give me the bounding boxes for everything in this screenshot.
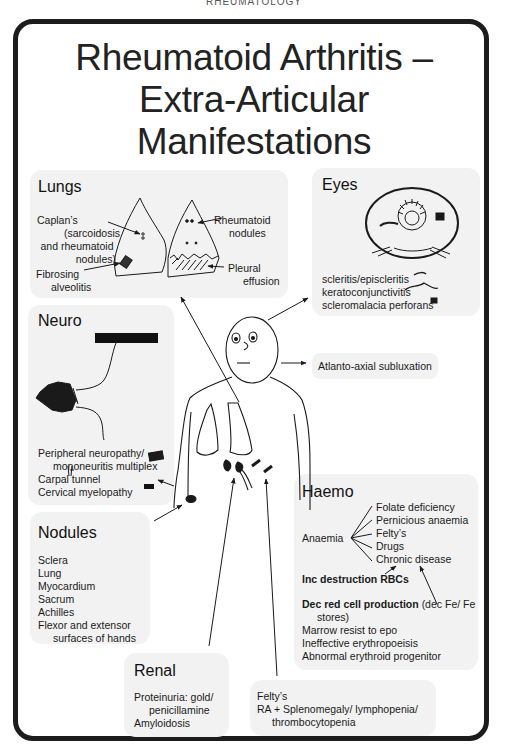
haemo-heading: Haemo (302, 483, 354, 501)
mechanism-ineffective: Ineffective erythropoeisis (302, 637, 475, 650)
anaemia-label: Anaemia (302, 532, 343, 545)
mechanism-abnormal: Abnormal erythroid progenitor (302, 650, 475, 663)
atlanto-axial-label: Atlanto-axial subluxation (318, 360, 432, 373)
nodules-item: Sclera (38, 554, 136, 567)
mechanism-marrow: Marrow resist to epo (302, 624, 475, 637)
eyes-list: scleritis/episcleritis keratoconjunctivi… (322, 273, 433, 312)
eyes-item-keratoconjunctivitis: keratoconjunctivitis (322, 286, 433, 299)
cause-chronic: Chronic disease (376, 553, 468, 566)
cause-drugs: Drugs (376, 540, 468, 553)
inc-destruction-label: Inc destruction RBCs (302, 573, 409, 586)
running-head: RHEUMATOLOGY (0, 0, 508, 7)
atlanto-axial-panel: Atlanto-axial subluxation (312, 353, 438, 379)
nodules-item: Flexor and extensor (38, 619, 136, 632)
eyes-item-scleritis: scleritis/episcleritis (322, 273, 433, 286)
feltys-item: RA + Splenomegaly/ lymphopenia/ (257, 703, 418, 716)
feltys-item: thrombocytopenia (257, 716, 418, 729)
nodules-item: surfaces of hands (38, 632, 136, 645)
title-line-2: Extra-Articular (0, 79, 508, 121)
title-line-3: Manifestations (0, 121, 508, 163)
renal-item: Amyloidosis (134, 717, 213, 730)
renal-heading: Renal (134, 662, 176, 680)
nodules-panel: Nodules Sclera Lung Myocardium Sacrum Ac… (30, 512, 150, 644)
eyes-heading: Eyes (322, 176, 358, 194)
nodules-list: Sclera Lung Myocardium Sacrum Achilles F… (38, 554, 136, 645)
renal-item: penicillamine (134, 704, 213, 717)
neuro-panel: Neuro Peripheral neuropathy/ mononeuriti… (28, 305, 174, 505)
neuro-list: Peripheral neuropathy/ mononeuritis mult… (38, 447, 157, 499)
cause-pernicious: Pernicious anaemia (376, 514, 468, 527)
fibrosing-alveolitis-label: Fibrosing alveolitis (36, 268, 91, 294)
rheumatoid-nodules-label: Rheumatoid nodules (214, 214, 271, 240)
lungs-heading: Lungs (38, 178, 82, 196)
neuro-item-mononeuritis: mononeuritis multiplex (38, 460, 157, 473)
nodules-item: Sacrum (38, 593, 136, 606)
eyes-panel: Eyes scleritis/episcleritis keratoconjun… (312, 168, 480, 316)
neuro-item-carpal: Carpal tunnel (38, 473, 157, 486)
title-line-1: Rheumatoid Arthritis – (0, 37, 508, 79)
dec-production-label: Dec red cell production (dec Fe/ Fe stor… (302, 598, 475, 663)
cause-feltys: Felty’s (376, 527, 468, 540)
nodules-heading: Nodules (38, 524, 97, 542)
eyes-item-scleromalacia: scleromalacia perforans (322, 299, 433, 312)
lungs-panel: Lungs Caplan’s (sarcoidosis and rheumato… (30, 170, 288, 298)
feltys-list: Felty’s RA + Splenomegaly/ lymphopenia/ … (257, 690, 418, 729)
renal-panel: Renal Proteinuria: gold/ penicillamine A… (124, 653, 229, 737)
neuro-item-peripheral: Peripheral neuropathy/ (38, 447, 157, 460)
renal-item: Proteinuria: gold/ (134, 691, 213, 704)
nodules-item: Myocardium (38, 580, 136, 593)
feltys-panel: Felty’s RA + Splenomegaly/ lymphopenia/ … (250, 680, 436, 736)
page-title: Rheumatoid Arthritis – Extra-Articular M… (0, 37, 508, 163)
renal-list: Proteinuria: gold/ penicillamine Amyloid… (134, 691, 213, 730)
nodules-item: Lung (38, 567, 136, 580)
cause-folate: Folate deficiency (376, 501, 468, 514)
feltys-item: Felty’s (257, 690, 418, 703)
nodules-item: Achilles (38, 606, 136, 619)
pleural-effusion-label: Pleural effusion (228, 262, 280, 288)
anaemia-causes: Folate deficiency Pernicious anaemia Fel… (376, 501, 468, 566)
neuro-heading: Neuro (38, 312, 82, 330)
caplans-label: Caplan’s (sarcoidosis and rheumatoid nod… (34, 214, 120, 266)
neuro-item-cervical: Cervical myelopathy (38, 486, 157, 499)
haemo-panel: Haemo Anaemia Folate deficiency Pernicio… (294, 474, 478, 670)
